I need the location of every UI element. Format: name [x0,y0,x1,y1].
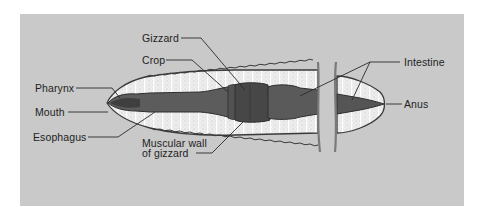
label-esophagus: Esophagus [33,132,86,143]
label-anus: Anus [404,99,428,110]
label-pharynx: Pharynx [35,83,74,94]
label-intestine: Intestine [404,57,445,68]
cut-lines [318,62,336,152]
label-gizzard: Gizzard [142,33,179,44]
label-mouth: Mouth [35,107,65,118]
label-muscular-wall-line2: of gizzard [142,148,189,159]
label-crop: Crop [142,55,165,66]
